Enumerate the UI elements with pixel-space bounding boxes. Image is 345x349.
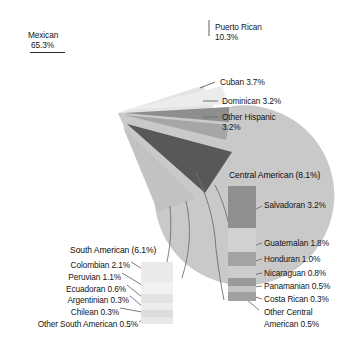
central-american-swatch-column: [228, 186, 256, 316]
label-chilean: Chilean 0.3%: [0, 307, 119, 317]
label-panamanian: Panamanian 0.5%: [264, 281, 330, 291]
label-peruvian: Peruvian 1.1%: [0, 272, 121, 282]
tick-ecuadoran: [127, 285, 142, 297]
label-salvadoran: Salvadoran 3.2%: [264, 200, 326, 210]
swatch-nicaraguan: [228, 266, 256, 278]
swatch-other-south-american: [141, 317, 173, 324]
label-other-central-american-line1: Other Central: [264, 307, 313, 317]
label-dominican: Dominican 3.2%: [222, 96, 281, 106]
label-cuban: Cuban 3.7%: [220, 77, 265, 87]
swatch-panamanian: [228, 278, 256, 286]
tick-chilean: [120, 308, 142, 312]
south-american-swatch-column: [141, 262, 173, 324]
swatch-other-central-american: [228, 292, 256, 301]
swatch-guatemalan: [228, 228, 256, 252]
swatch-honduran: [228, 252, 256, 266]
label-colombian: Colombian 2.1%: [0, 260, 130, 270]
swatch-ecuadoran: [141, 294, 173, 303]
pie-chart-figure: Mexican 65.3% Puerto Rican 10.3% Cuban 3…: [0, 0, 345, 349]
label-guatemalan: Guatemalan 1.8%: [264, 238, 329, 248]
label-costa-rican: Costa Rican 0.3%: [264, 294, 329, 304]
label-mexican-value: 65.3%: [31, 40, 54, 50]
label-central-american-header: Central American (8.1%): [229, 170, 320, 181]
label-other-hispanic-value: 3.2%: [222, 122, 241, 132]
label-puerto-rican-value: 10.3%: [215, 32, 238, 42]
label-other-central-american-line2: American 0.5%: [264, 319, 319, 329]
label-other-hispanic-name: Other Hispanic: [222, 112, 275, 122]
label-nicaraguan: Nicaraguan 0.8%: [264, 268, 326, 278]
label-honduran: Honduran 1.0%: [264, 254, 320, 264]
label-ecuadoran: Ecuadoran 0.6%: [0, 284, 126, 294]
label-other-south-american: Other South American 0.5%: [0, 319, 138, 329]
swatch-argentinian: [141, 303, 173, 310]
swatch-salvadoran: [228, 186, 256, 228]
swatch-colombian: [141, 262, 173, 282]
label-mexican-underline: [30, 52, 65, 53]
swatch-chilean: [141, 310, 173, 317]
leader-line-cuban: [200, 82, 215, 88]
label-mexican-name: Mexican: [28, 30, 58, 40]
label-argentinian: Argentinian 0.3%: [0, 295, 129, 305]
label-puerto-rican-name: Puerto Rican: [215, 22, 262, 32]
label-south-american-header: South American (6.1%): [70, 245, 156, 256]
swatch-peruvian: [141, 282, 173, 294]
